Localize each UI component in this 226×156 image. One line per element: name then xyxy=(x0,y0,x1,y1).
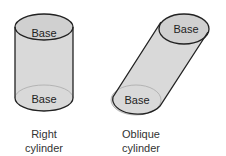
oblique-bottom-base-label: Base xyxy=(124,94,149,106)
right-cylinder-caption: Right cylinder xyxy=(14,127,74,155)
right-top-base-label: Base xyxy=(31,27,56,39)
right-cylinder: Base Base xyxy=(15,14,73,111)
oblique-top-base-label: Base xyxy=(173,23,198,35)
right-caption-line1: Right xyxy=(14,127,74,141)
oblique-cylinder: Base Base xyxy=(111,14,209,115)
oblique-caption-line1: Oblique xyxy=(113,127,169,141)
right-bottom-base-label: Base xyxy=(31,93,56,105)
oblique-cylinder-caption: Oblique cylinder xyxy=(113,127,169,155)
oblique-caption-line2: cylinder xyxy=(113,141,169,155)
right-caption-line2: cylinder xyxy=(14,141,74,155)
